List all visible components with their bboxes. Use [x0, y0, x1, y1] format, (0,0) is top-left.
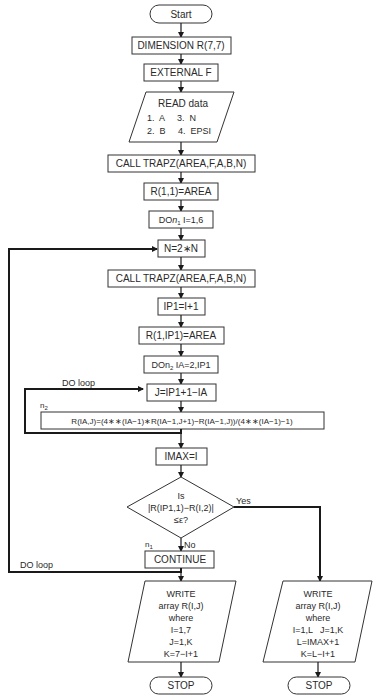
dimension-box: DIMENSION R(7,7) — [132, 37, 231, 54]
do-n2-label: DOn2 IA=2,IP1 — [151, 360, 210, 371]
n-double-label: N=2∗N — [164, 243, 198, 254]
external-box: EXTERNAL F — [144, 64, 218, 81]
n2-label: n2 — [40, 401, 48, 411]
r1ip1-box: R(1,IP1)=AREA — [139, 327, 224, 344]
flowchart-canvas: Start DIMENSION R(7,7) EXTERNAL F READ d… — [0, 0, 381, 698]
n-double-box: N=2∗N — [158, 240, 205, 257]
imax-label: IMAX=I — [164, 451, 197, 462]
write-left-line-6: K=7−I+1 — [164, 649, 198, 659]
read-line-2: 2. B 4. EPSI — [147, 126, 211, 136]
stop-terminal-right: STOP — [288, 677, 350, 694]
inner-do-loop-label: DO loop — [62, 378, 95, 388]
decision-line-2: |R(IP1,1)−R(I,2)| — [148, 503, 214, 513]
richardson-box: R(IA,J)=(4∗∗(IA−1)∗R(IA−1,J+1)−R(IA−1,J)… — [41, 412, 324, 429]
yes-label: Yes — [236, 496, 251, 506]
start-terminal: Start — [150, 5, 212, 23]
decision-line-3: ≤ε? — [174, 515, 188, 525]
r11-box: R(1,1)=AREA — [144, 183, 218, 200]
write-right-line-2: array R(I,J) — [296, 601, 341, 611]
continue-box: CONTINUE — [145, 551, 214, 568]
yes-branch-edge — [234, 507, 320, 581]
call-trapz-box-2: CALL TRAPZ(AREA,F,A,B,N) — [108, 270, 255, 287]
richardson-label: R(IA,J)=(4∗∗(IA−1)∗R(IA−1,J+1)−R(IA−1,J)… — [71, 417, 293, 426]
call-trapz-label-2: CALL TRAPZ(AREA,F,A,B,N) — [116, 273, 247, 284]
write-left-line-5: J=1,K — [169, 637, 192, 647]
decision-line-1: Is — [177, 491, 185, 501]
write-output-right: WRITE array R(I,J) where I=1,L J=1,K L=I… — [263, 581, 372, 662]
r1ip1-label: R(1,IP1)=AREA — [146, 330, 217, 341]
write-left-line-2: array R(I,J) — [159, 601, 204, 611]
stop-right-label: STOP — [305, 680, 332, 691]
read-data-io: READ data 1. A 3. N 2. B 4. EPSI — [129, 92, 234, 142]
do-n2-box: DOn2 IA=2,IP1 — [144, 356, 218, 373]
write-right-line-6: K=L−I+1 — [301, 649, 335, 659]
write-right-line-3: where — [305, 613, 331, 623]
start-label: Start — [170, 9, 191, 20]
write-right-line-1: WRITE — [304, 589, 333, 599]
read-title: READ data — [158, 98, 208, 109]
write-right-line-4: I=1,L J=1,K — [293, 625, 344, 635]
write-left-line-4: I=1,7 — [171, 625, 191, 635]
j-assign-label: J=IP1+1−IA — [155, 387, 208, 398]
continue-label: CONTINUE — [154, 554, 207, 565]
read-line-1: 1. A 3. N — [147, 113, 196, 123]
stop-left-label: STOP — [167, 680, 194, 691]
imax-box: IMAX=I — [156, 448, 207, 465]
external-label: EXTERNAL F — [150, 67, 211, 78]
call-trapz-box-1: CALL TRAPZ(AREA,F,A,B,N) — [108, 155, 255, 172]
j-assign-box: J=IP1+1−IA — [147, 384, 216, 401]
outer-do-loop-label: DO loop — [20, 560, 53, 570]
ip1-label: IP1=I+1 — [163, 301, 198, 312]
write-output-left: WRITE array R(I,J) where I=1,7 J=1,K K=7… — [128, 581, 236, 662]
dimension-label: DIMENSION R(7,7) — [137, 40, 224, 51]
r11-label: R(1,1)=AREA — [151, 186, 212, 197]
call-trapz-label-1: CALL TRAPZ(AREA,F,A,B,N) — [116, 158, 247, 169]
write-right-line-5: L=IMAX+1 — [297, 637, 340, 647]
stop-terminal-left: STOP — [150, 677, 212, 694]
convergence-decision: Is |R(IP1,1)−R(I,2)| ≤ε? — [127, 477, 234, 538]
write-left-line-1: WRITE — [167, 589, 196, 599]
ip1-box: IP1=I+1 — [158, 298, 205, 315]
write-left-line-3: where — [168, 613, 194, 623]
no-label: No — [184, 540, 196, 550]
n1-label: n1 — [145, 540, 153, 550]
do-n1-label: DOn1 I=1,6 — [159, 215, 204, 226]
do-n1-box: DOn1 I=1,6 — [149, 211, 213, 228]
